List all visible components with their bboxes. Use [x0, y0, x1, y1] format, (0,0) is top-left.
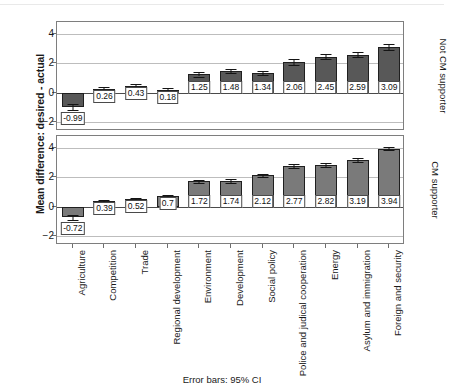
error-bar-cap-upper	[257, 71, 268, 72]
error-bar-cap-lower	[320, 59, 331, 60]
bar-value-label: 0.43	[125, 87, 147, 100]
strip-label-top: Not CM supporter	[406, 21, 442, 130]
x-axis-label: Development	[234, 250, 245, 306]
x-tick-mark	[293, 244, 294, 248]
x-axis-label: Competition	[107, 250, 118, 301]
x-tick-mark	[103, 244, 104, 248]
x-axis-label: Foreign and security	[392, 250, 403, 336]
bar-group[interactable]: 2.12	[247, 136, 279, 243]
bar-group[interactable]: 2.59	[342, 22, 374, 129]
y-tick-label: 2	[24, 171, 54, 182]
bar-value-label: 0.26	[94, 90, 116, 103]
bar-value-label: -0.72	[61, 222, 85, 235]
x-tick-mark	[167, 244, 168, 248]
bar-group[interactable]: 3.09	[373, 22, 403, 129]
error-bar-cap-upper	[162, 195, 173, 196]
error-bar-cap-upper	[289, 164, 300, 165]
x-axis-label: Police and judical cooperation	[297, 250, 308, 376]
error-bar-cap-upper	[225, 179, 236, 180]
error-bar-cap-lower	[67, 220, 78, 221]
error-bar-cap-upper	[131, 84, 142, 85]
x-tick-mark	[198, 244, 199, 248]
y-tick-label: −2	[24, 116, 54, 127]
bar-group[interactable]: 0.7	[152, 136, 184, 243]
plot-area-bottom: -0.720.390.520.71.721.742.122.772.823.19…	[57, 136, 403, 243]
y-tick-label: −2	[24, 230, 54, 241]
bar-group[interactable]: 0.26	[89, 22, 121, 129]
error-bar-cap-lower	[384, 150, 395, 151]
error-bar-cap-upper	[352, 52, 363, 53]
bar-value-label: 2.59	[347, 81, 369, 94]
x-tick-mark	[262, 244, 263, 248]
bar-value-label: 2.12	[252, 195, 274, 208]
error-bar-cap-upper	[320, 163, 331, 164]
strip-label-bottom: CM supporter	[406, 135, 442, 244]
bar-value-label: 2.77	[283, 195, 305, 208]
x-tick-mark	[230, 244, 231, 248]
error-bar-cap-upper	[257, 174, 268, 175]
bar-group[interactable]: 3.94	[373, 136, 403, 243]
bar-group[interactable]: 1.74	[215, 136, 247, 243]
bar-group[interactable]: 2.06	[278, 22, 310, 129]
error-bar-cap-lower	[225, 183, 236, 184]
bar-value-label: 0.7	[159, 197, 176, 210]
y-tick-label: 2	[24, 57, 54, 68]
x-axis-label: Trade	[139, 250, 150, 274]
error-bar-cap-upper	[225, 69, 236, 70]
error-bar-cap-upper	[384, 44, 395, 45]
x-axis-label: Social policy	[266, 250, 277, 303]
error-bar-cap-lower	[352, 162, 363, 163]
x-axis-label: Asylum and immigration	[361, 250, 372, 351]
error-bar-cap-upper	[194, 180, 205, 181]
error-bar-cap-upper	[162, 88, 173, 89]
error-bar-cap-upper	[194, 72, 205, 73]
error-bar-cap-lower	[194, 183, 205, 184]
bar-value-label: 2.45	[315, 81, 337, 94]
bar-group[interactable]: 0.43	[120, 22, 152, 129]
bar-value-label: 3.09	[378, 81, 400, 94]
bar-value-label: -0.99	[61, 112, 85, 125]
panel-cm-supporter: -0.720.390.520.71.721.742.122.772.823.19…	[56, 135, 404, 244]
error-bar-cap-upper	[289, 59, 300, 60]
error-bar-cap-upper	[352, 158, 363, 159]
error-bar-cap-lower	[384, 50, 395, 51]
x-axis-label: Regional development	[171, 250, 182, 345]
x-tick-mark	[135, 244, 136, 248]
bar-value-label: 3.19	[347, 195, 369, 208]
bar-group[interactable]: 1.48	[215, 22, 247, 129]
y-tick-label: 0	[24, 200, 54, 211]
bar-group[interactable]: 0.52	[120, 136, 152, 243]
bar-value-label: 1.25	[189, 81, 211, 94]
bar-group[interactable]: 2.82	[310, 136, 342, 243]
error-bar-cap-lower	[320, 167, 331, 168]
bar-group[interactable]: 1.72	[184, 136, 216, 243]
top-rule	[0, 4, 444, 5]
error-bar-cap-upper	[99, 200, 110, 201]
error-bar-cap-upper	[131, 198, 142, 199]
footnote: Error bars: 95% CI	[0, 374, 444, 385]
y-tick-label: 4	[24, 141, 54, 152]
strip-label-bottom-text: CM supporter	[430, 161, 440, 219]
error-bar-cap-lower	[257, 177, 268, 178]
bar-group[interactable]: 0.39	[89, 136, 121, 243]
bar-group[interactable]: 1.34	[247, 22, 279, 129]
error-bar-cap-upper	[99, 87, 110, 88]
bar-group[interactable]: 2.45	[310, 22, 342, 129]
bar-value-label: 2.06	[283, 81, 305, 94]
bar-group[interactable]: 0.18	[152, 22, 184, 129]
bar-group[interactable]: -0.72	[57, 136, 89, 243]
x-tick-mark	[388, 244, 389, 248]
bar-value-label: 1.48	[220, 81, 242, 94]
bar-group[interactable]: 3.19	[342, 136, 374, 243]
x-tick-mark	[325, 244, 326, 248]
y-tick-label: 0	[24, 86, 54, 97]
bar-value-label: 3.94	[378, 195, 400, 208]
error-bar-cap-lower	[257, 75, 268, 76]
x-axis-label: Energy	[329, 250, 340, 280]
bar-group[interactable]: 1.25	[184, 22, 216, 129]
bar-group[interactable]: -0.99	[57, 22, 89, 129]
bar-group[interactable]: 2.77	[278, 136, 310, 243]
y-tick-label: 4	[24, 27, 54, 38]
bar-value-label: 2.82	[315, 195, 337, 208]
